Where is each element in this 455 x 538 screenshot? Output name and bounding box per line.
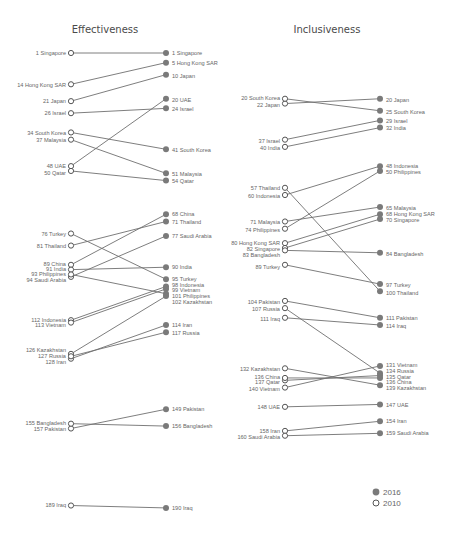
label-2010: 157 Pakistan xyxy=(34,426,66,432)
slope-line-south-korea xyxy=(71,132,166,149)
marker-2010-south-korea xyxy=(68,130,73,135)
label-2016: 114 Iran xyxy=(172,322,192,328)
marker-2010-iraq xyxy=(282,315,287,320)
label-2016: 149 Pakistan xyxy=(172,406,204,412)
marker-2010-russia xyxy=(282,306,287,311)
slope-line-uae xyxy=(285,404,380,406)
slope-line-iran xyxy=(285,421,380,431)
marker-2010-turkey xyxy=(68,231,73,236)
label-2010: 48 UAE xyxy=(47,163,67,169)
label-2016: 159 Saudi Arabia xyxy=(386,430,429,436)
label-2010: 94 Saudi Arabia xyxy=(27,277,67,283)
legend-filled-circle-icon xyxy=(373,489,380,496)
marker-2016-israel xyxy=(163,105,169,111)
marker-2016-malaysia xyxy=(377,204,383,210)
label-2010: 40 India xyxy=(260,145,281,151)
marker-2010-vietnam xyxy=(68,320,73,325)
marker-2010-philippines xyxy=(282,226,287,231)
marker-2016-iraq xyxy=(377,322,383,328)
slope-line-bangladesh xyxy=(285,250,380,252)
slope-line-russia xyxy=(285,308,380,373)
label-2016: 71 Thailand xyxy=(172,219,201,225)
label-2016: 114 Iraq xyxy=(386,323,406,329)
label-2010: 1 Singapore xyxy=(36,50,66,56)
label-2010: 140 Viet­nam xyxy=(249,386,281,392)
label-2010: 34 South Korea xyxy=(27,130,67,136)
marker-2010-bangladesh xyxy=(68,421,73,426)
marker-2016-pakistan xyxy=(163,406,169,412)
label-2010: 57 Thailand xyxy=(251,185,280,191)
slope-line-philippines xyxy=(285,171,380,229)
marker-2016-bangladesh xyxy=(163,423,169,429)
slope-line-philippines xyxy=(71,274,166,293)
inclusiveness-panel: 20 South Korea22 Japan37 Israel40 India5… xyxy=(231,95,435,440)
slope-line-south-korea xyxy=(285,99,380,111)
slope-line-saudi-arabia xyxy=(285,433,380,435)
marker-2016-bangladesh xyxy=(377,250,383,256)
marker-2010-malaysia xyxy=(68,137,73,142)
slope-line-uae xyxy=(71,99,166,166)
label-2016: 50 Philippines xyxy=(386,169,421,175)
marker-2016-india xyxy=(377,125,383,131)
slope-line-iraq xyxy=(71,506,166,508)
slope-line-pakistan xyxy=(285,301,380,318)
marker-2010-israel xyxy=(68,111,73,116)
marker-2016-thailand xyxy=(163,218,169,224)
label-2016: 1 Singapore xyxy=(172,50,202,56)
marker-2016-iran xyxy=(377,418,383,424)
slope-line-india xyxy=(71,267,166,269)
marker-2010-pakistan xyxy=(282,298,287,303)
label-2010: 76 Turkey xyxy=(41,231,66,237)
slope-line-israel xyxy=(285,120,380,139)
marker-2010-philippines xyxy=(68,272,73,277)
marker-2016-kazakhstan xyxy=(377,382,383,388)
marker-2010-thailand xyxy=(68,243,73,248)
marker-2016-qatar xyxy=(163,178,169,184)
label-2016: 97 Turkey xyxy=(386,282,411,288)
slope-line-japan xyxy=(285,99,380,104)
label-2010: 60 Indonesia xyxy=(248,193,281,199)
label-2016: 20 Japan xyxy=(386,97,409,103)
marker-2016-south-korea xyxy=(377,108,383,114)
label-2016: 117 Russia xyxy=(172,330,200,336)
label-2016: 84 Bangladesh xyxy=(386,251,423,257)
label-2010: 89 Turkey xyxy=(255,264,280,270)
marker-2010-bangladesh xyxy=(282,248,287,253)
label-2010: 160 Saudi Arabia xyxy=(237,434,280,440)
marker-2016-israel xyxy=(377,117,383,123)
marker-2010-saudi-arabia xyxy=(282,433,287,438)
label-2010: 22 Japan xyxy=(257,102,280,108)
label-2016: 139 Kazakhstan xyxy=(386,385,426,391)
label-2010: 148 UAE xyxy=(258,404,281,410)
label-2016: 100 Thailand xyxy=(386,290,418,296)
marker-2016-japan xyxy=(163,72,169,78)
slope-line-indonesia xyxy=(71,286,166,320)
label-2010: 128 Iran xyxy=(45,359,66,365)
slope-line-japan xyxy=(71,75,166,101)
marker-2010-uae xyxy=(282,404,287,409)
label-2010: 14 Hong Kong SAR xyxy=(17,82,66,88)
marker-2016-philippines xyxy=(377,168,383,174)
slope-line-turkey xyxy=(285,265,380,284)
marker-2016-russia xyxy=(163,329,169,335)
marker-2016-uae xyxy=(163,96,169,102)
label-2010: 74 Philippines xyxy=(245,227,280,233)
marker-2016-turkey xyxy=(163,276,169,282)
label-2010: 81 Thailand xyxy=(37,243,66,249)
slope-line-hong-kong-sar xyxy=(285,214,380,243)
label-2016: 111 Pakistan xyxy=(386,315,418,321)
slope-line-thailand xyxy=(285,188,380,292)
marker-2010-turkey xyxy=(282,262,287,267)
legend: 2016 2010 xyxy=(373,488,402,508)
marker-2016-malaysia xyxy=(163,170,169,176)
label-2010: 50 Qatar xyxy=(44,170,66,176)
label-2016: 54 Qatar xyxy=(172,178,194,184)
slope-line-turkey xyxy=(71,234,166,280)
slope-line-kazakhstan xyxy=(285,368,380,385)
label-2010: 113 Vietnam xyxy=(35,322,66,328)
slope-line-russia xyxy=(71,332,166,356)
label-2016: 68 China xyxy=(172,211,195,217)
legend-label-2010: 2010 xyxy=(383,499,401,508)
label-2010: 111 Iraq xyxy=(260,316,280,322)
label-2010: 137 Qatar xyxy=(255,379,280,385)
